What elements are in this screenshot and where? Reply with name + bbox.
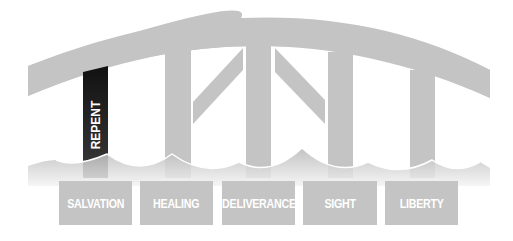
label-healing: HEALING	[140, 181, 213, 225]
pillar-3	[246, 46, 271, 178]
label-healing-text: HEALING	[153, 196, 199, 211]
label-deliverance-text: DELIVERANCE	[222, 196, 296, 211]
diagonal-left	[193, 48, 243, 124]
repent-label: REPENT	[89, 97, 103, 153]
label-sight: SIGHT	[303, 181, 377, 225]
label-liberty: LIBERTY	[385, 181, 458, 225]
label-deliverance: DELIVERANCE	[222, 181, 295, 225]
label-liberty-text: LIBERTY	[400, 196, 444, 211]
label-salvation-text: SALVATION	[67, 196, 124, 211]
diagonal-right	[275, 48, 325, 124]
label-salvation: SALVATION	[59, 181, 132, 225]
pillar-4	[328, 52, 353, 178]
label-sight-text: SIGHT	[324, 196, 355, 211]
repent-text: REPENT	[89, 101, 103, 150]
